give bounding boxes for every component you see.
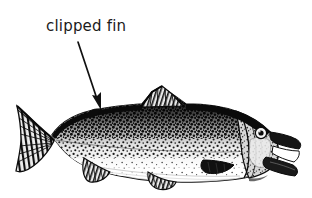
caudal-fin <box>16 106 54 172</box>
trout-illustration <box>0 0 312 198</box>
annotation-arrow <box>78 42 101 110</box>
illustration-page: clipped fin <box>0 0 312 198</box>
eye <box>255 127 266 138</box>
